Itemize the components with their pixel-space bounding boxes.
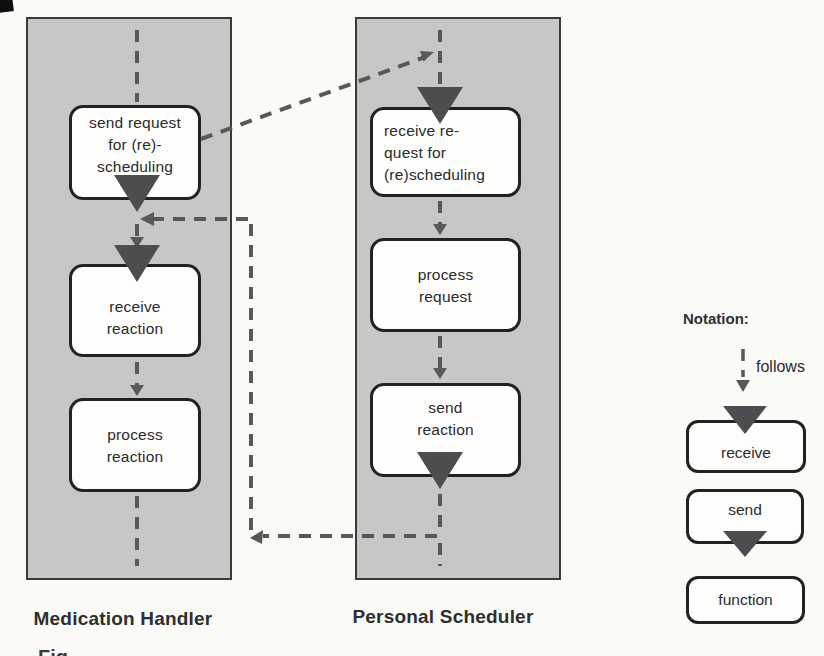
legend-title: Notation: — [683, 310, 749, 327]
node-receive-request: receive re- quest for (re)scheduling — [370, 107, 521, 197]
scan-corner-artifact — [0, 0, 14, 13]
figure-canvas: send request for (re)- scheduling receiv… — [0, 0, 824, 656]
node-process-request: process request — [370, 238, 521, 332]
message-reaction-corner-arrowhead — [250, 530, 263, 544]
node-text-line: process — [107, 424, 163, 446]
node-text-line: reaction — [417, 419, 474, 441]
legend-receive-label: receive — [721, 444, 771, 462]
partial-figure-caption: Fig. — [38, 646, 108, 656]
node-text-line: request — [419, 286, 472, 308]
node-text-line: reaction — [107, 446, 164, 468]
node-text-line: send request — [89, 112, 181, 134]
legend-send-box: send — [686, 489, 804, 544]
node-receive-reaction: receive reaction — [69, 264, 201, 357]
node-process-reaction: process reaction — [69, 398, 201, 492]
legend-follows-arrowhead — [736, 380, 750, 392]
legend-function-label: function — [718, 591, 772, 609]
legend-function-box: function — [686, 576, 805, 624]
node-text-line: scheduling — [97, 156, 173, 178]
node-text-line: send — [428, 397, 462, 419]
legend-follows-label: follows — [756, 358, 805, 376]
node-text-line: reaction — [107, 318, 164, 340]
node-text-line: receive re- — [384, 120, 459, 142]
node-send-request: send request for (re)- scheduling — [69, 105, 201, 200]
legend-send-label: send — [728, 501, 762, 519]
node-text-line: receive — [109, 296, 160, 318]
node-text-line: process — [418, 264, 474, 286]
lane-label-personal-scheduler: Personal Scheduler — [340, 606, 546, 628]
node-text-line: quest for — [384, 142, 446, 164]
legend-receive-box: receive — [686, 420, 806, 473]
node-text-line: (re)scheduling — [384, 164, 485, 186]
node-text-line: for (re)- — [108, 134, 161, 156]
node-send-reaction: send reaction — [370, 383, 521, 477]
lane-label-medication-handler: Medication Handler — [20, 608, 226, 630]
